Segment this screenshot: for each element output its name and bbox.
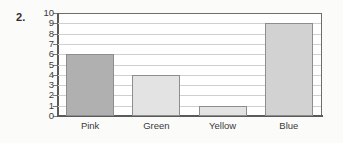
y-axis-tick-label: 7	[14, 39, 54, 49]
x-axis-tick-label: Pink	[57, 120, 123, 131]
y-axis-tick-label: 3	[14, 80, 54, 90]
x-axis-tick-label: Blue	[256, 120, 322, 131]
y-axis-tick-label: 5	[14, 60, 54, 70]
bar-chart-figure: 2. 109876543210 PinkGreenYellowBlue	[0, 0, 343, 143]
y-axis-tick-label: 2	[14, 90, 54, 100]
x-axis-tick-label: Green	[123, 120, 189, 131]
y-axis-tick-label: 1	[14, 101, 54, 111]
y-axis-tick-label: 4	[14, 70, 54, 80]
bar	[132, 75, 180, 116]
y-axis-tick-label: 8	[14, 29, 54, 39]
bar	[265, 23, 313, 116]
bar	[199, 106, 247, 116]
y-axis-tick-label: 9	[14, 18, 54, 28]
y-axis-tick-label: 10	[14, 8, 54, 18]
y-axis-tick-label: 0	[14, 111, 54, 121]
x-axis-tick-label: Yellow	[190, 120, 256, 131]
y-axis-tick-label: 6	[14, 49, 54, 59]
bar	[66, 54, 114, 116]
